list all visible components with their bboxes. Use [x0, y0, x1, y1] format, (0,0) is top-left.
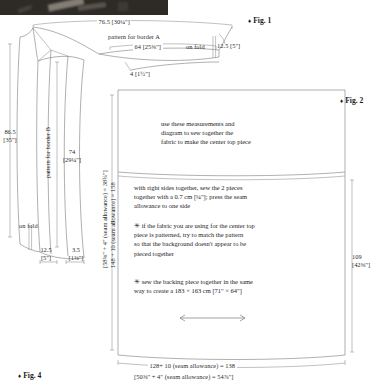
fig2-label: ♦Fig. 2	[340, 96, 363, 105]
border-a-on-fold: on fold	[186, 43, 205, 51]
border-b-left-width: 12.5 [5"]	[32, 246, 60, 262]
border-b-right-width: 3.5 [1⅜"]	[60, 246, 92, 262]
border-a-notch: 4 [1½"]	[130, 70, 150, 78]
center-top-height-metric: 148 + 10 (seam allowance) = 158	[109, 182, 117, 268]
fig2-bullet-icon: ♦	[340, 97, 343, 104]
border-a-inner-width: 64 [25⅜"]	[133, 43, 163, 51]
center-top-right-height: 109 [42⅜"]	[352, 253, 378, 269]
center-top-height-imperial: [58⅜" + 4" (seam allowance) = 38¾"]	[101, 170, 109, 268]
center-top-bottom-imperial: [50⅝" + 4" (seam allowance) = 54⅞"]	[134, 373, 233, 381]
border-a-top-width: 76.5 [30¼"]	[97, 18, 131, 26]
border-a-title: pattern for border A	[108, 33, 160, 41]
border-b-outer-height: 86.5 [35"]	[0, 128, 20, 144]
border-a-fold-width: 12.5 [5"]	[217, 42, 240, 50]
border-b-title: pattern for border B	[44, 127, 52, 178]
center-top-note-4: ✳ sew the backing piece together in the …	[134, 277, 253, 295]
border-b-inner-height: 74 [29¼"]	[60, 148, 84, 164]
center-top-bottom-metric: 128+ 10 (seam allowance) = 138	[148, 362, 237, 370]
fig1-label: ♦Fig. 1	[248, 16, 271, 25]
fig4-bullet-icon: ♦	[18, 372, 21, 379]
pattern-diagram-page: ♦Fig. 1 76.5 [30¼"] pattern for border A…	[0, 0, 380, 390]
fig1-bullet-icon: ♦	[248, 17, 251, 24]
fig4-label: ♦Fig. 4	[18, 371, 41, 380]
center-top-note-2: with right sides together, sew the 2 pie…	[134, 183, 247, 211]
center-top-note-1: use these measurements and diagram to se…	[161, 119, 251, 147]
center-top-note-3: ✳ if the fabric you are using for the ce…	[134, 221, 255, 258]
border-b-on-fold: on fold	[19, 222, 38, 230]
